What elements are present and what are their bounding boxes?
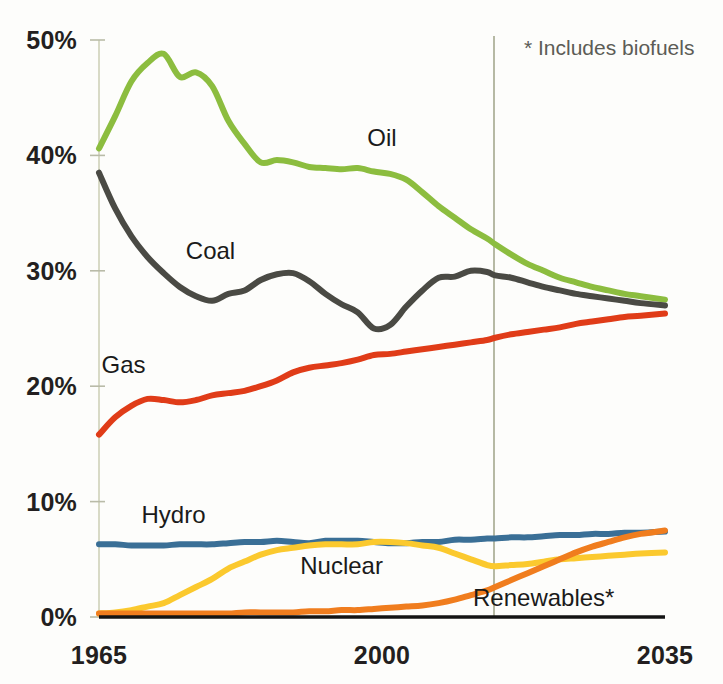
x-axis-label-1965: 1965 bbox=[71, 641, 127, 669]
series-label-gas: Gas bbox=[102, 351, 146, 378]
chart-canvas: 0%10%20%30%40%50% OilCoalGasHydroNuclear… bbox=[0, 0, 723, 684]
series-label-renewables: Renewables* bbox=[473, 584, 614, 611]
y-axis-label-30pct: 30% bbox=[26, 257, 77, 285]
x-tick-labels: 196520002035 bbox=[71, 641, 693, 669]
footnote-includes-biofuels: * Includes biofuels bbox=[524, 36, 694, 59]
y-axis-label-50pct: 50% bbox=[26, 26, 77, 54]
y-axis-label-40pct: 40% bbox=[26, 141, 77, 169]
series-line-oil bbox=[99, 53, 665, 299]
series-label-nuclear: Nuclear bbox=[300, 552, 383, 579]
x-axis-label-2000: 2000 bbox=[354, 641, 410, 669]
y-axis-group bbox=[90, 40, 105, 617]
series-label-coal: Coal bbox=[186, 237, 235, 264]
series-line-coal bbox=[99, 173, 665, 330]
x-axis-label-2035: 2035 bbox=[637, 641, 693, 669]
energy-mix-chart: 0%10%20%30%40%50% OilCoalGasHydroNuclear… bbox=[0, 0, 723, 684]
y-axis-label-20pct: 20% bbox=[26, 372, 77, 400]
y-tick-marks bbox=[90, 40, 105, 617]
y-tick-labels: 0%10%20%30%40%50% bbox=[26, 26, 77, 631]
y-axis-label-0pct: 0% bbox=[40, 603, 77, 631]
series-label-oil: Oil bbox=[367, 124, 396, 151]
y-axis-label-10pct: 10% bbox=[26, 488, 77, 516]
series-label-hydro: Hydro bbox=[142, 501, 206, 528]
